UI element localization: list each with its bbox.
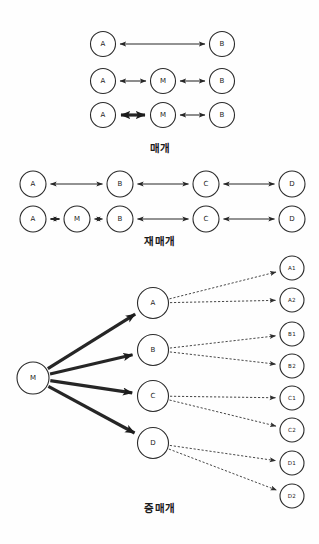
edge-hub-to-d: [48, 386, 134, 433]
node-label: B: [117, 215, 122, 223]
node-label: D: [150, 439, 156, 447]
node-b[interactable]: B: [138, 335, 169, 366]
node-a[interactable]: A: [91, 103, 116, 128]
node-d[interactable]: D: [279, 171, 305, 197]
node-label: D1: [288, 460, 297, 466]
node-m[interactable]: M: [151, 69, 176, 94]
node-label: B: [219, 40, 224, 48]
edge-b-to-b2: [170, 352, 276, 364]
edge-b-to-b1: [170, 336, 276, 348]
node-label: B1: [288, 331, 296, 337]
node-c2[interactable]: C2: [280, 418, 304, 442]
edge-c-to-c2: [170, 400, 276, 426]
node-label: B: [117, 180, 122, 188]
node-label: A: [101, 111, 106, 119]
node-m[interactable]: M: [64, 206, 90, 232]
node-label: M: [30, 374, 36, 382]
node-b[interactable]: B: [210, 103, 235, 128]
node-d[interactable]: D: [138, 428, 169, 459]
edge-d-to-d2: [169, 449, 277, 490]
node-label: A2: [288, 297, 296, 303]
node-a[interactable]: A: [91, 69, 116, 94]
node-m[interactable]: M: [151, 103, 176, 128]
node-d1[interactable]: D1: [280, 451, 304, 475]
node-label: A: [101, 40, 106, 48]
node-label: C: [203, 180, 208, 188]
node-label: B2: [288, 363, 296, 369]
node-b2[interactable]: B2: [280, 354, 304, 378]
node-a[interactable]: A: [20, 206, 46, 232]
edge-hub-to-a: [48, 314, 135, 369]
node-a[interactable]: A: [20, 171, 46, 197]
node-d[interactable]: D: [279, 206, 305, 232]
node-c1[interactable]: C1: [280, 386, 304, 410]
node-label: A: [101, 77, 106, 85]
node-c[interactable]: C: [193, 206, 219, 232]
node-a[interactable]: A: [138, 288, 169, 319]
node-label: A: [31, 180, 36, 188]
node-label: C: [203, 215, 208, 223]
node-label: B: [150, 346, 155, 354]
diagram-canvas: ABAMBAMBABCDAMBCDMABCDA1A2B1B2C1C2D1D2 매…: [0, 0, 319, 544]
node-c[interactable]: C: [193, 171, 219, 197]
node-label: A: [151, 299, 156, 307]
node-d2[interactable]: D2: [280, 484, 304, 508]
edge-a-to-a2: [170, 300, 276, 302]
node-label: B: [219, 77, 224, 85]
edge-c-to-c1: [170, 396, 276, 398]
node-b[interactable]: B: [107, 206, 133, 232]
node-label: A1: [288, 265, 296, 271]
edge-hub-to-c: [50, 381, 132, 393]
node-hub-m[interactable]: M: [17, 362, 49, 394]
node-c[interactable]: C: [138, 381, 169, 412]
node-label: M: [160, 77, 166, 85]
node-label: D: [289, 215, 295, 223]
node-label: A: [31, 215, 36, 223]
node-label: B: [219, 111, 224, 119]
node-label: M: [74, 215, 80, 223]
node-b1[interactable]: B1: [280, 322, 304, 346]
edge-a-to-a1: [169, 272, 276, 299]
node-label: C1: [288, 395, 296, 401]
node-a[interactable]: A: [91, 32, 116, 57]
caption-section-remediation: 재매개: [144, 235, 175, 247]
caption-section-mediation: 매개: [150, 142, 171, 154]
node-b[interactable]: B: [210, 32, 235, 57]
node-a1[interactable]: A1: [280, 256, 304, 280]
edge-hub-to-b: [50, 355, 133, 374]
node-label: D: [289, 180, 295, 188]
node-a2[interactable]: A2: [280, 288, 304, 312]
node-b[interactable]: B: [107, 171, 133, 197]
node-label: C: [150, 392, 155, 400]
nodes-layer: ABAMBAMBABCDAMBCDMABCDA1A2B1B2C1C2D1D2: [17, 32, 305, 509]
node-label: M: [160, 111, 166, 119]
node-label: D2: [288, 493, 296, 499]
node-label: C2: [288, 427, 296, 433]
node-b[interactable]: B: [210, 69, 235, 94]
edge-d-to-d1: [170, 445, 276, 460]
mediation-diagram-svg: ABAMBAMBABCDAMBCDMABCDA1A2B1B2C1C2D1D2 매…: [0, 0, 319, 544]
caption-section-hub-mediation: 중매개: [144, 502, 175, 514]
